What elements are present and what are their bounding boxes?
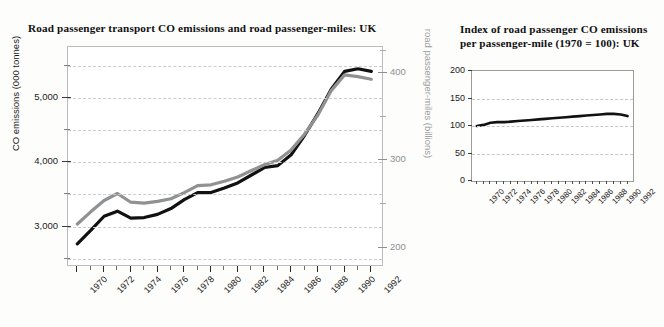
secondary-y-axis-tick xyxy=(378,72,387,73)
x-axis-tick-label: 1978 xyxy=(195,274,216,295)
x-axis-tick xyxy=(157,266,158,272)
passenger-miles-line xyxy=(77,75,371,224)
y-axis-tick xyxy=(62,226,71,227)
x-axis-tick xyxy=(183,266,184,272)
y-axis-tick xyxy=(468,70,472,71)
x-axis-tick-label: 1974 xyxy=(142,274,163,295)
x-axis-tick xyxy=(503,181,504,184)
y-axis-minor-tick xyxy=(64,193,70,194)
y-axis-tick-label: 5,000 xyxy=(18,91,58,102)
secondary-y-axis-tick-label: 300 xyxy=(390,153,406,164)
x-axis-tick xyxy=(103,266,104,272)
x-axis-tick xyxy=(592,181,593,184)
secondary-y-axis-tick-label: 200 xyxy=(390,241,406,252)
x-axis-tick-label: 1970 xyxy=(88,274,109,295)
y-axis-minor-tick xyxy=(64,129,70,130)
x-axis-minor-tick xyxy=(116,266,117,270)
y-axis-tick xyxy=(468,98,472,99)
x-axis-tick xyxy=(579,181,580,184)
secondary-y-axis-minor-tick xyxy=(380,50,386,51)
x-axis-tick xyxy=(531,181,532,184)
y-axis-minor-tick xyxy=(64,258,70,259)
x-axis-minor-tick xyxy=(277,266,278,270)
y-axis-tick-label: 3,000 xyxy=(18,220,58,231)
x-axis-minor-tick xyxy=(304,266,305,270)
x-axis-tick xyxy=(537,181,538,184)
y-axis-tick-label: 200 xyxy=(441,65,465,75)
x-axis-tick xyxy=(496,181,497,184)
secondary-y-axis-tick-label: 400 xyxy=(390,66,406,77)
secondary-y-axis-tick xyxy=(378,159,387,160)
x-axis-tick xyxy=(524,181,525,184)
x-axis-tick xyxy=(76,266,77,272)
x-axis-tick xyxy=(599,181,600,184)
x-axis-tick-label: 1986 xyxy=(302,274,323,295)
x-axis-minor-tick xyxy=(143,266,144,270)
secondary-y-axis-tick xyxy=(378,247,387,248)
x-axis-tick xyxy=(544,181,545,184)
gridline xyxy=(68,227,382,228)
gridline xyxy=(68,66,382,67)
y-axis-tick-label: 4,000 xyxy=(18,155,58,166)
left-chart-title: Road passenger transport CO emissions an… xyxy=(28,22,428,35)
x-axis-minor-tick xyxy=(250,266,251,270)
y-axis-tick xyxy=(468,180,472,181)
x-axis-tick xyxy=(489,181,490,184)
left-chart-secondary-y-axis-title: road passenger-miles (billions) xyxy=(423,19,434,169)
x-axis-tick-label: 1988 xyxy=(329,274,350,295)
x-axis-tick xyxy=(620,181,621,184)
x-axis-tick xyxy=(606,181,607,184)
x-axis-tick xyxy=(510,181,511,184)
y-axis-tick xyxy=(62,97,71,98)
x-axis-minor-tick xyxy=(90,266,91,270)
x-axis-tick-label: 1984 xyxy=(275,274,296,295)
figure-page: Road passenger transport CO emissions an… xyxy=(0,0,664,327)
x-axis-tick xyxy=(517,181,518,184)
gridline xyxy=(68,98,382,99)
right-chart-title: Index of road passenger CO emissions per… xyxy=(460,22,650,50)
x-axis-minor-tick xyxy=(223,266,224,270)
gridline xyxy=(472,126,633,127)
x-axis-tick xyxy=(565,181,566,184)
y-axis-tick-label: 50 xyxy=(441,148,465,158)
right-chart-plot-area xyxy=(471,70,634,182)
x-axis-tick xyxy=(130,266,131,272)
y-axis-tick-label: 100 xyxy=(441,120,465,130)
x-axis-tick-label: 1982 xyxy=(249,274,270,295)
gridline xyxy=(68,194,382,195)
y-axis-tick xyxy=(62,161,71,162)
gridline xyxy=(472,99,633,100)
x-axis-tick-label: 1972 xyxy=(115,274,136,295)
left-figure: Road passenger transport CO emissions an… xyxy=(0,0,440,327)
secondary-y-axis-minor-tick xyxy=(380,116,386,117)
x-axis-tick xyxy=(613,181,614,184)
x-axis-tick xyxy=(572,181,573,184)
x-axis-tick-label: 1990 xyxy=(355,274,376,295)
x-axis-minor-tick xyxy=(330,266,331,270)
y-axis-minor-tick xyxy=(64,65,70,66)
x-axis-tick xyxy=(585,181,586,184)
x-axis-tick xyxy=(263,266,264,272)
y-axis-tick xyxy=(468,153,472,154)
x-axis-tick xyxy=(317,266,318,272)
right-figure: Index of road passenger CO emissions per… xyxy=(440,0,664,327)
gridline xyxy=(68,130,382,131)
x-axis-tick xyxy=(476,181,477,184)
co-index-line xyxy=(477,114,628,126)
x-axis-tick-label: 1992 xyxy=(382,274,403,295)
x-axis-tick xyxy=(210,266,211,272)
gridline xyxy=(68,162,382,163)
x-axis-tick xyxy=(290,266,291,272)
x-axis-tick xyxy=(558,181,559,184)
x-axis-tick xyxy=(551,181,552,184)
x-axis-tick xyxy=(237,266,238,272)
x-axis-tick xyxy=(483,181,484,184)
y-axis-tick-label: 0 xyxy=(441,175,465,185)
x-axis-minor-tick xyxy=(357,266,358,270)
y-axis-tick-label: 150 xyxy=(441,93,465,103)
gridline xyxy=(68,259,382,260)
x-axis-tick xyxy=(370,266,371,272)
x-axis-minor-tick xyxy=(197,266,198,270)
gridline xyxy=(472,154,633,155)
left-chart-svg xyxy=(68,47,382,265)
